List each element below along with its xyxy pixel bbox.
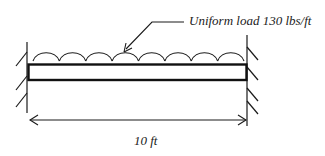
load-leader-arrow <box>124 22 184 52</box>
right-hatch-4 <box>247 101 258 114</box>
right-fixed-support <box>247 35 258 126</box>
span-label: 10 ft <box>134 133 158 148</box>
load-arc <box>191 53 217 61</box>
left-hatch-1 <box>16 52 27 66</box>
right-hatch-2 <box>247 67 258 80</box>
load-arc <box>112 53 138 61</box>
load-arc <box>165 53 191 61</box>
span-dimension <box>30 115 246 125</box>
right-hatch-3 <box>247 88 258 101</box>
load-arc <box>86 53 112 61</box>
load-arc <box>33 53 59 61</box>
load-arc <box>59 53 85 61</box>
beam-diagram: Uniform load 130 lbs/ft 10 ft <box>0 0 325 156</box>
load-label: Uniform load 130 lbs/ft <box>189 13 312 28</box>
load-arc <box>139 53 165 61</box>
left-hatch-2 <box>16 76 27 90</box>
left-fixed-support <box>16 42 27 113</box>
beam <box>29 65 247 81</box>
left-hatch-3 <box>16 93 27 107</box>
leader-line <box>126 22 184 49</box>
distributed-load <box>33 53 244 61</box>
right-hatch-1 <box>247 47 258 60</box>
load-arc <box>218 53 244 61</box>
